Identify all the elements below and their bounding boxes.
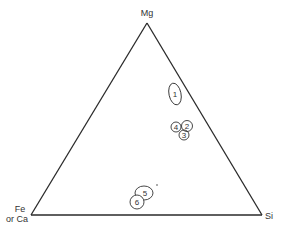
vertex-label-ca: or Ca	[6, 214, 28, 224]
vertex-label-fe: Fe	[15, 204, 26, 214]
vertex-label-si: Si	[265, 211, 273, 221]
svg-text:4: 4	[174, 123, 179, 132]
svg-text:3: 3	[182, 131, 187, 140]
field-3: 3	[179, 130, 189, 140]
stray-dot	[156, 184, 158, 186]
edge-mg-si	[147, 23, 262, 215]
vertex-label-mg: Mg	[141, 8, 154, 18]
edge-mg-fe	[31, 23, 147, 215]
field-6: 6	[130, 195, 144, 209]
svg-text:2: 2	[185, 122, 190, 131]
svg-text:1: 1	[173, 90, 178, 99]
field-1: 1	[167, 82, 183, 106]
svg-text:6: 6	[135, 198, 140, 207]
ternary-diagram: Mg Fe or Ca Si 1 4 2 3 5 6	[0, 0, 281, 230]
field-4: 4	[171, 122, 181, 132]
svg-text:5: 5	[143, 189, 148, 198]
